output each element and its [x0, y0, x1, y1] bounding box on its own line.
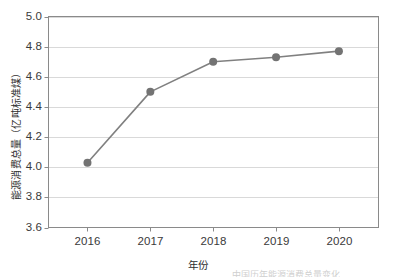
y-axis-title: 能源消费总量（亿吨标准煤） — [8, 67, 23, 200]
x-tick-label: 2020 — [310, 235, 370, 247]
y-tick-marks — [45, 18, 49, 229]
data-point — [83, 159, 91, 167]
x-tick-marks — [88, 228, 340, 232]
data-point — [209, 58, 217, 66]
data-point — [272, 53, 280, 61]
plot-background — [49, 17, 379, 228]
figure-caption-cropped: 中国历年能源消费总量变化 — [232, 268, 340, 277]
chart-figure: 3.63.84.04.24.44.64.85.0 201620172018201… — [0, 0, 395, 277]
x-tick-label: 2017 — [121, 235, 181, 247]
data-point — [146, 88, 154, 96]
x-tick-label: 2018 — [184, 235, 244, 247]
y-tick-label: 5.0 — [2, 10, 42, 22]
x-tick-label: 2019 — [247, 235, 307, 247]
x-tick-label: 2016 — [58, 235, 118, 247]
y-tick-label: 4.8 — [2, 40, 42, 52]
data-point — [335, 47, 343, 55]
y-tick-label: 3.6 — [2, 221, 42, 233]
